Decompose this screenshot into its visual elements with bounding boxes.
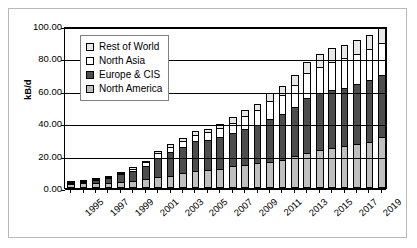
x-axis-tick-mark <box>244 189 245 193</box>
x-axis-tick-mark <box>232 189 233 193</box>
legend-item[interactable]: North Asia <box>86 54 162 68</box>
bar-column[interactable] <box>266 93 274 188</box>
bar-column[interactable] <box>279 86 287 188</box>
bar-segment <box>353 144 361 188</box>
bar-column[interactable] <box>117 172 125 188</box>
bar-segment <box>291 107 299 155</box>
bar-segment <box>117 182 125 188</box>
x-axis-tick-mark <box>368 189 369 193</box>
bar-segment <box>279 114 287 160</box>
bar-column[interactable] <box>67 181 75 188</box>
bar-segment <box>204 170 212 188</box>
bar-column[interactable] <box>241 110 249 188</box>
bar-segment <box>80 183 88 188</box>
bar-segment <box>266 101 274 118</box>
bar-segment <box>316 67 324 94</box>
bar-segment <box>192 135 200 142</box>
bar-segment <box>378 137 386 188</box>
chart-legend: Rest of WorldNorth AsiaEurope & CISNorth… <box>80 35 169 101</box>
bar-column[interactable] <box>80 180 88 188</box>
bar-column[interactable] <box>316 54 324 188</box>
bar-segment <box>92 183 100 188</box>
x-axis-tick-label: 2013 <box>306 196 329 218</box>
bar-segment <box>316 150 324 188</box>
x-axis-tick-mark <box>219 189 220 193</box>
x-axis-tick-mark <box>281 189 282 193</box>
x-axis-tick-label: 1999 <box>132 196 155 218</box>
bar-column[interactable] <box>192 131 200 188</box>
bar-column[interactable] <box>179 138 187 188</box>
x-axis-tick-mark <box>95 189 96 193</box>
gridline <box>65 158 386 159</box>
legend-swatch-icon <box>86 43 94 51</box>
legend-item[interactable]: Europe & CIS <box>86 68 162 82</box>
gridline <box>65 125 386 126</box>
bar-column[interactable] <box>216 124 224 188</box>
bar-segment <box>192 171 200 188</box>
bar-segment <box>204 132 212 140</box>
x-axis-tick-mark <box>269 189 270 193</box>
x-axis-tick-label: 2005 <box>207 196 230 218</box>
bar-segment <box>303 73 311 98</box>
bar-segment <box>142 166 150 179</box>
bar-column[interactable] <box>92 178 100 188</box>
x-axis-tick-mark <box>194 189 195 193</box>
bar-segment <box>216 169 224 188</box>
legend-swatch-icon <box>86 71 94 79</box>
x-axis-tick-label: 2019 <box>381 196 404 218</box>
bar-segment <box>129 181 137 188</box>
bar-column[interactable] <box>154 151 162 188</box>
bar-segment <box>254 110 262 125</box>
x-axis-tick-mark <box>182 189 183 193</box>
bar-segment <box>154 177 162 188</box>
x-axis-tick-mark <box>207 189 208 193</box>
bar-segment <box>266 93 274 101</box>
legend-item[interactable]: North America <box>86 82 162 96</box>
y-axis-tick-label: 40.00 <box>10 119 62 128</box>
bar-segment <box>117 174 125 181</box>
legend-item-label: Rest of World <box>99 42 159 52</box>
bar-segment <box>67 184 75 188</box>
x-axis-tick-label: 2017 <box>356 196 379 218</box>
bar-column[interactable] <box>229 117 237 188</box>
bar-segment <box>179 173 187 188</box>
bar-segment <box>328 90 336 148</box>
bar-segment <box>129 171 137 181</box>
x-axis-tick-label: 1997 <box>107 196 130 218</box>
x-axis-tick-label: 2009 <box>257 196 280 218</box>
bar-column[interactable] <box>105 176 113 188</box>
bar-segment <box>167 152 175 176</box>
legend-swatch-icon <box>86 85 94 93</box>
legend-item-label: Europe & CIS <box>99 70 160 80</box>
y-axis-tick-mark <box>61 125 65 126</box>
bar-segment <box>291 85 299 107</box>
bar-column[interactable] <box>328 48 336 188</box>
bar-segment <box>254 163 262 188</box>
bar-column[interactable] <box>291 75 299 188</box>
bar-column[interactable] <box>254 104 262 188</box>
x-axis-tick-mark <box>319 189 320 193</box>
bar-segment <box>229 133 237 166</box>
x-axis-tick-label: 1995 <box>83 196 106 218</box>
bar-column[interactable] <box>167 144 175 188</box>
legend-item[interactable]: Rest of World <box>86 40 162 54</box>
bar-segment <box>216 137 224 168</box>
x-axis-tick-mark <box>331 189 332 193</box>
bar-segment <box>266 162 274 188</box>
y-axis-tick-label: 0.00 <box>10 184 62 193</box>
x-axis-tick-mark <box>120 189 121 193</box>
bar-segment <box>316 93 324 150</box>
bar-column[interactable] <box>142 161 150 189</box>
bar-column[interactable] <box>129 167 137 188</box>
x-axis-ticks <box>64 189 387 195</box>
y-axis-tick-mark <box>61 93 65 94</box>
y-axis-tick-mark <box>61 158 65 159</box>
bar-segment <box>291 75 299 85</box>
x-axis-tick-mark <box>344 189 345 193</box>
x-axis-tick-label: 2007 <box>232 196 255 218</box>
x-axis-tick-mark <box>132 189 133 193</box>
y-axis-tick-label: 60.00 <box>10 87 62 96</box>
x-axis-tick-mark <box>306 189 307 193</box>
bar-segment <box>105 183 113 189</box>
bar-segment <box>154 158 162 178</box>
